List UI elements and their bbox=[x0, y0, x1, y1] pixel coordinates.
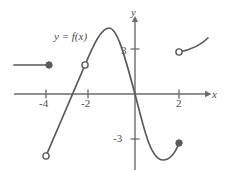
x-axis-label: x bbox=[212, 88, 217, 100]
curve-branch-right bbox=[179, 38, 208, 52]
function-equation-label: y = f(x) bbox=[54, 30, 87, 42]
open-point-lower-left bbox=[43, 153, 49, 159]
x-tick-label-neg4: -4 bbox=[39, 97, 48, 109]
y-axis-label: y bbox=[131, 6, 136, 18]
open-point-at-2-upper bbox=[176, 49, 182, 55]
closed-point-at-2 bbox=[176, 140, 182, 146]
y-tick-label-neg3: -3 bbox=[113, 132, 122, 144]
closed-point-left-ray-end bbox=[46, 62, 52, 68]
graph-canvas bbox=[0, 0, 227, 170]
x-tick-label-pos2: 2 bbox=[176, 97, 182, 109]
y-tick-label-pos3: 3 bbox=[121, 44, 127, 56]
x-axis-arrowhead bbox=[205, 91, 212, 97]
x-tick-label-neg2: -2 bbox=[81, 97, 90, 109]
curve-rising-line-middle-left bbox=[46, 65, 85, 156]
open-point-at-neg2 bbox=[82, 62, 88, 68]
function-graph-figure: y x -4 -2 2 3 -3 y = f(x) bbox=[0, 0, 227, 170]
